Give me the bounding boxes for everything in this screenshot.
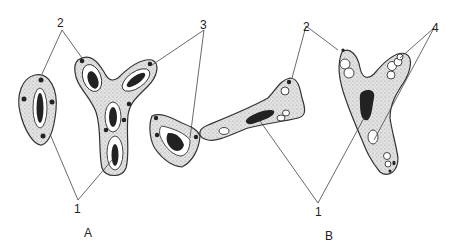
panel-label-b: B bbox=[325, 229, 333, 243]
panel-label-a: A bbox=[84, 226, 92, 240]
callout-b-2: 2 bbox=[303, 20, 310, 34]
callout-a-2: 2 bbox=[57, 16, 64, 30]
cell-a-y bbox=[75, 57, 157, 175]
nucleus bbox=[37, 93, 44, 123]
cell-a-angular bbox=[150, 115, 200, 167]
cell-diagram: 2 3 1 A bbox=[0, 0, 456, 247]
panel-b: 2 4 1 B bbox=[200, 20, 439, 243]
callout-b-1: 1 bbox=[315, 205, 322, 219]
callout-b-4: 4 bbox=[432, 21, 439, 35]
panel-a: 2 3 1 A bbox=[19, 16, 207, 240]
cell-a-small bbox=[19, 75, 57, 145]
cell-b-elongated bbox=[200, 78, 305, 140]
callout-a-1: 1 bbox=[74, 202, 81, 216]
callout-a-3: 3 bbox=[200, 18, 207, 32]
cell-b-y bbox=[339, 48, 410, 174]
